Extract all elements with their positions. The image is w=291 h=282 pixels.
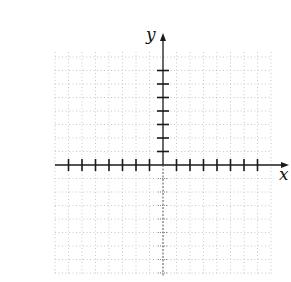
y-axis-arrow-icon: [160, 33, 166, 41]
axes: [55, 33, 289, 276]
x-axis-label: x: [279, 166, 289, 183]
y-axis-label: y: [146, 26, 156, 43]
